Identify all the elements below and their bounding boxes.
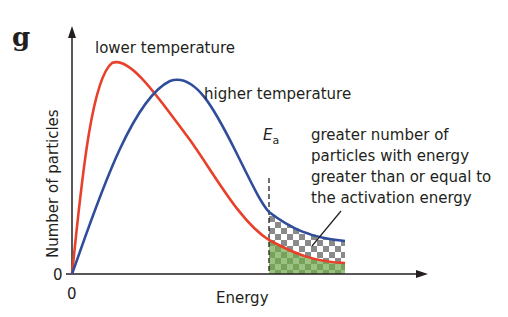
y-axis-label: Number of particles xyxy=(44,109,62,258)
annotation-line-4: the activation energy xyxy=(311,189,472,207)
x-axis-label: Energy xyxy=(216,289,269,307)
panel-label: g xyxy=(12,22,30,52)
x-origin-tick: 0 xyxy=(67,285,77,303)
x-axis-arrow-icon xyxy=(416,270,428,278)
lower-temperature-label: lower temperature xyxy=(95,39,235,57)
distribution-chart: g lower temperature higher temperature E… xyxy=(0,0,508,317)
annotation-line-2: particles with energy xyxy=(311,147,469,165)
annotation-line-3: greater than or equal to xyxy=(311,168,491,186)
higher-temperature-label: higher temperature xyxy=(204,85,351,103)
annotation-line-1: greater number of xyxy=(311,126,449,144)
activation-energy-label: Ea xyxy=(263,126,279,147)
y-origin-tick: 0 xyxy=(53,266,63,284)
y-axis-arrow-icon xyxy=(68,26,76,38)
